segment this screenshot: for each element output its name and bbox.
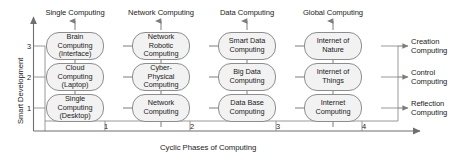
y-tick-3: 3: [24, 42, 34, 51]
node-line-1: Network Computing: [136, 99, 186, 116]
node-line-2: Nature: [317, 46, 349, 55]
y-tick-2: 2: [24, 73, 34, 82]
vertical-connectors: [75, 58, 333, 127]
node-line-1: Brain Computing: [50, 33, 100, 50]
output-line-2: Computing: [411, 46, 447, 55]
column-header-network-computing: Network Computing: [115, 8, 207, 17]
node-single-computing[interactable]: Single Computing (Desktop): [46, 94, 104, 122]
column-header-single-computing: Single Computing: [29, 8, 121, 17]
node-line-1: Network Robotic: [136, 33, 186, 50]
x-tick-1: 1: [100, 122, 112, 131]
header-arrows: [75, 21, 333, 30]
node-line-2: Computing: [230, 108, 265, 117]
x-tick-4: 4: [358, 122, 370, 131]
node-big-data-computing[interactable]: Big Data Computing: [218, 63, 276, 91]
column-header-data-computing: Data Computing: [201, 8, 293, 17]
node-internet-of-nature[interactable]: Internet of Nature: [304, 32, 362, 60]
diagram-canvas: Single Computing Network Computing Data …: [0, 0, 460, 165]
x-tick-3: 3: [272, 122, 284, 131]
node-smart-data-computing[interactable]: Smart Data Computing: [218, 32, 276, 60]
node-line-1: Internet Computing: [308, 99, 358, 116]
node-line-2: Computing: [136, 81, 186, 90]
node-brain-computing[interactable]: Brain Computing (Interface): [46, 32, 104, 60]
output-arrows: [381, 46, 408, 121]
output-line-1: Reflection: [411, 99, 447, 108]
node-network-robotic-computing[interactable]: Network Robotic Computing: [132, 32, 190, 60]
node-cloud-computing[interactable]: Cloud Computing (Laptop): [46, 63, 104, 91]
y-tick-1: 1: [24, 104, 34, 113]
output-label-control-computing: Control Computing: [411, 68, 447, 86]
node-line-2: Computing: [230, 77, 265, 86]
node-data-base-computing[interactable]: Data Base Computing: [218, 94, 276, 122]
x-axis-title: Cyclic Phases of Computing: [160, 143, 256, 152]
y-axis-title: Smart Development: [16, 58, 25, 124]
node-cyber-physical-computing[interactable]: Cyber- Physical Computing: [132, 63, 190, 91]
output-line-1: Creation: [411, 37, 447, 46]
node-line-2: Computing: [229, 46, 265, 55]
output-label-reflection-computing: Reflection Computing: [411, 99, 447, 117]
node-network-computing[interactable]: Network Computing: [132, 94, 190, 122]
node-line-1: Single Computing: [50, 95, 100, 112]
output-line-2: Computing: [411, 77, 447, 86]
node-internet-computing[interactable]: Internet Computing: [304, 94, 362, 122]
node-line-2: (Laptop): [50, 81, 100, 90]
node-line-1: Cyber- Physical: [136, 64, 186, 81]
node-line-2: (Desktop): [50, 112, 100, 121]
column-header-global-computing: Global Computing: [287, 8, 379, 17]
output-line-1: Control: [411, 68, 447, 77]
node-internet-of-things[interactable]: Internet of Things: [304, 63, 362, 91]
node-line-1: Cloud Computing: [50, 64, 100, 81]
node-line-2: Computing: [136, 50, 186, 59]
output-line-2: Computing: [411, 108, 447, 117]
output-label-creation-computing: Creation Computing: [411, 37, 447, 55]
node-line-1: Internet of Things: [308, 68, 358, 85]
y-axis: [34, 17, 46, 131]
node-line-2: (Interface): [50, 50, 100, 59]
x-tick-2: 2: [186, 122, 198, 131]
